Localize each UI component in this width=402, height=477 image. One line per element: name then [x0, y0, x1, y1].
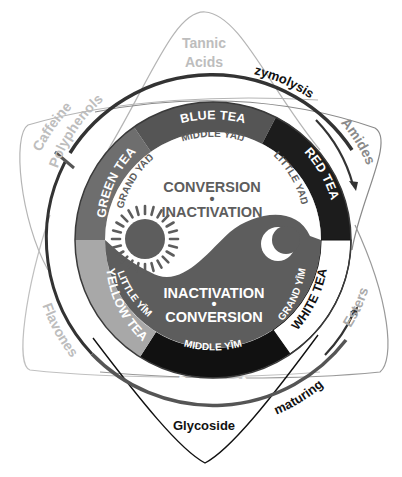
tannic-acids-label-line1: Tannic	[182, 35, 226, 51]
bottom-conversion: CONVERSION	[165, 309, 263, 325]
top-inactivation: INACTIVATION	[162, 204, 263, 220]
amides-arrow-head	[349, 181, 358, 191]
tea-wheel-diagram: BLUE TEA RED TEA WHITE TEA BLACK TEA YEL…	[0, 0, 402, 477]
glycoside-label: Glycoside	[173, 418, 235, 433]
tannic-acids-label-line2: Acids	[185, 54, 223, 70]
esters-label: Esters	[339, 285, 371, 330]
